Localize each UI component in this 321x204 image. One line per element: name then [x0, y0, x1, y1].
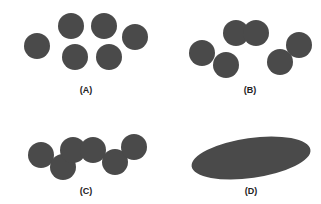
circle-shape: [213, 52, 239, 78]
circle-shape: [80, 137, 106, 163]
panel-a: [24, 13, 148, 70]
circle-shape: [122, 24, 148, 50]
circle-shape: [243, 20, 269, 46]
circle-shape: [189, 40, 215, 66]
panel-b: [189, 20, 312, 78]
circle-shape: [286, 32, 312, 58]
panel-a-label: (A): [80, 85, 93, 95]
circle-shape: [62, 44, 88, 70]
ellipse-shape: [189, 130, 313, 186]
circle-shape: [96, 44, 122, 70]
panel-c-label: (C): [80, 186, 93, 196]
circle-shape: [91, 13, 117, 39]
circle-shape: [58, 13, 84, 39]
panel-d-label: (D): [245, 186, 258, 196]
panel-b-label: (B): [244, 85, 257, 95]
circle-shape: [121, 134, 147, 160]
figure-canvas: (A) (B) (C) (D): [0, 0, 321, 204]
panel-c: [28, 134, 147, 180]
circle-shape: [28, 142, 54, 168]
panel-d: [189, 130, 313, 186]
circle-shape: [24, 33, 50, 59]
